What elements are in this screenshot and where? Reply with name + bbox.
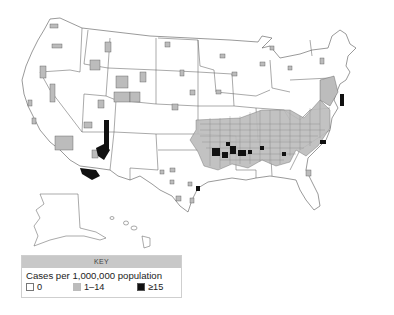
legend-title: Cases per 1,000,000 population xyxy=(22,270,181,281)
legend-item-high: ≥15 xyxy=(137,282,163,292)
legend-header: KEY xyxy=(22,256,181,268)
legend-item-label: ≥15 xyxy=(148,282,163,292)
swatch-gray-icon xyxy=(73,283,81,291)
legend-items: 0 1–14 ≥15 xyxy=(22,282,181,292)
hawaii xyxy=(110,217,150,249)
legend-item-zero: 0 xyxy=(26,282,73,292)
swatch-black-icon xyxy=(137,283,145,291)
legend-item-low: 1–14 xyxy=(73,282,137,292)
alaska xyxy=(34,194,106,246)
swatch-white-icon xyxy=(26,283,34,291)
map-legend: KEY Cases per 1,000,000 population 0 1–1… xyxy=(21,255,182,298)
legend-item-label: 0 xyxy=(37,282,42,292)
legend-item-label: 1–14 xyxy=(84,282,104,292)
